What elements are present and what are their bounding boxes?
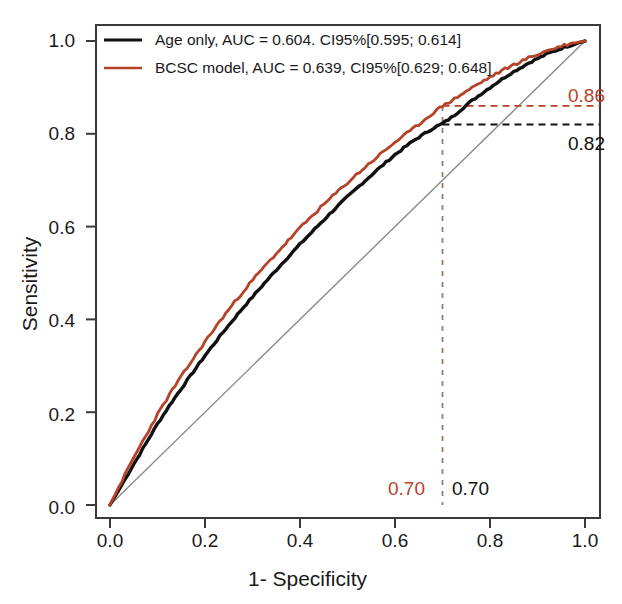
x-tick-label-1.0: 1.0 [560, 530, 610, 552]
y-tick-label-0.0: 0.0 [25, 497, 75, 519]
y-tick-label-1.0: 1.0 [25, 30, 75, 52]
y-tick-label-0.2: 0.2 [25, 404, 75, 426]
y-tick-label-0.6: 0.6 [25, 217, 75, 239]
y-tick-label-0.4: 0.4 [25, 310, 75, 332]
plot-canvas [0, 0, 622, 604]
y-axis-ticks [86, 41, 96, 505]
chance-diagonal-line [110, 41, 585, 505]
annotation-sensitivity-age: 0.82 [568, 133, 605, 155]
x-tick-label-0.4: 0.4 [275, 530, 325, 552]
annotation-specificity-age: 0.70 [452, 478, 489, 500]
annotation-specificity-bcsc: 0.70 [388, 478, 425, 500]
legend-label-age-only: Age only, AUC = 0.604. CI95%[0.595; 0.61… [155, 31, 461, 49]
roc-chart: Sensitivity 1- Specificity 1.0 0.8 0.6 0… [0, 0, 622, 604]
x-axis-ticks [110, 518, 585, 528]
annotation-sensitivity-bcsc: 0.86 [568, 85, 605, 107]
legend-label-bcsc-model: BCSC model, AUC = 0.639, CI95%[0.629; 0.… [155, 59, 491, 77]
x-tick-label-0.8: 0.8 [465, 530, 515, 552]
x-tick-label-0.2: 0.2 [180, 530, 230, 552]
x-axis-label: 1- Specificity [248, 567, 448, 591]
x-tick-label-0.0: 0.0 [85, 530, 135, 552]
x-tick-label-0.6: 0.6 [370, 530, 420, 552]
y-tick-label-0.8: 0.8 [25, 123, 75, 145]
